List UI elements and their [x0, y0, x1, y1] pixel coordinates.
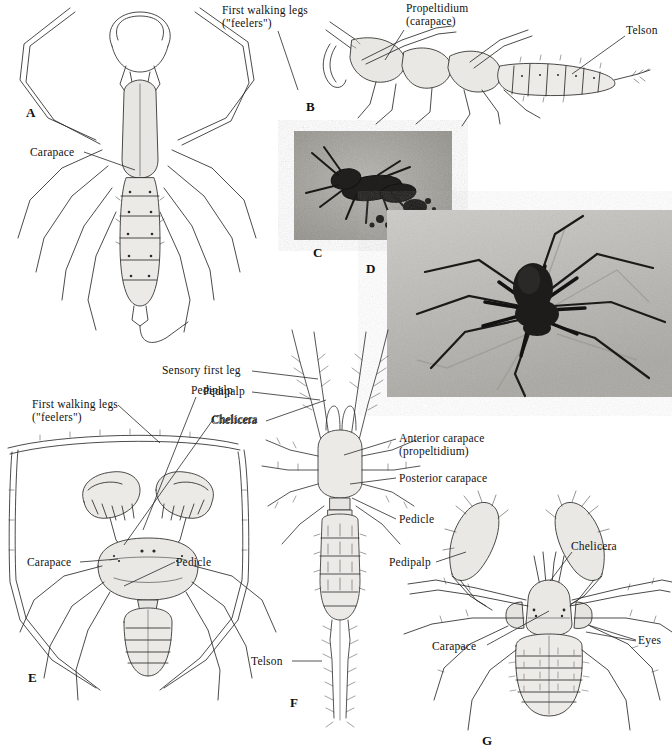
plate-letter-e: E [28, 670, 37, 686]
label-eyes-g: Eyes [638, 634, 661, 647]
label-propeltidium-b: Propeltidium (carapace) [406, 2, 468, 28]
label-pedicle-f: Pedicle [399, 513, 434, 526]
label-telson-f: Telson [251, 655, 283, 668]
label-posterior-carapace-f: Posterior carapace [399, 472, 487, 485]
plate-letter-c: C [313, 245, 322, 261]
label-first-walking-legs-e: First walking legs ("feelers") [32, 398, 118, 424]
label-pedipalp-e: Pedipalp [191, 384, 233, 397]
plate-letter-d: D [366, 261, 375, 277]
label-carapace-a: Carapace [30, 146, 74, 159]
label-carapace-g: Carapace [432, 640, 476, 653]
figure-plate: Carapace First walking legs ("feelers") … [0, 0, 672, 749]
plate-letter-g: G [482, 733, 492, 749]
label-sensory-first-leg-f: Sensory first leg [162, 364, 241, 377]
label-telson-b: Telson [626, 24, 658, 37]
label-chelicera-e: Chelicera [212, 413, 258, 426]
plate-letter-a: A [26, 105, 35, 121]
label-pedicle-e: Pedicle [176, 556, 211, 569]
label-carapace-e: Carapace [27, 556, 71, 569]
label-first-walking-legs-b: First walking legs ("feelers") [222, 4, 308, 30]
plate-letter-b: B [306, 99, 315, 115]
label-chelicera-g: Chelicera [571, 540, 617, 553]
label-anterior-carapace-f: Anterior carapace (propeltidium) [399, 432, 484, 458]
label-pedipalp-g: Pedipalp [389, 556, 431, 569]
plate-letter-f: F [290, 695, 298, 711]
leader-lines [0, 0, 672, 749]
